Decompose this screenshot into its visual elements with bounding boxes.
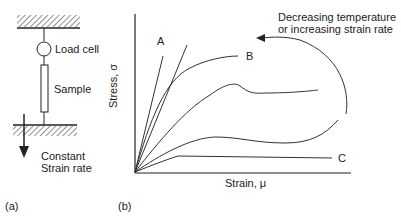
top-clamp <box>17 15 80 27</box>
curve-label-c: C <box>338 152 346 164</box>
panel-a-label: (a) <box>5 200 18 212</box>
load-cell-label: Load cell <box>55 43 99 55</box>
panel-b-label: (b) <box>118 200 131 212</box>
curve-label-a: A <box>157 35 164 47</box>
curve-b <box>135 56 238 172</box>
y-axis-label: Stress, σ <box>107 64 119 108</box>
strain-rate-label: Strain rate <box>41 162 92 174</box>
trend-arrow <box>256 34 347 114</box>
sample-label: Sample <box>54 83 91 95</box>
curve-c <box>135 156 332 172</box>
bottom-clamp <box>13 126 77 136</box>
curve-label-b: B <box>246 50 253 62</box>
stress-strain-curves <box>135 45 338 172</box>
arrowhead-icon <box>256 34 265 42</box>
load-cell-icon <box>37 42 51 56</box>
constant-label: Constant <box>41 150 85 162</box>
curve-hardening <box>135 120 338 172</box>
x-axis-label: Strain, μ <box>225 177 266 189</box>
sample-icon <box>41 65 48 112</box>
annotation-line-2: or increasing strain rate <box>278 23 393 35</box>
annotation-line-1: Decreasing temperature <box>278 11 396 23</box>
